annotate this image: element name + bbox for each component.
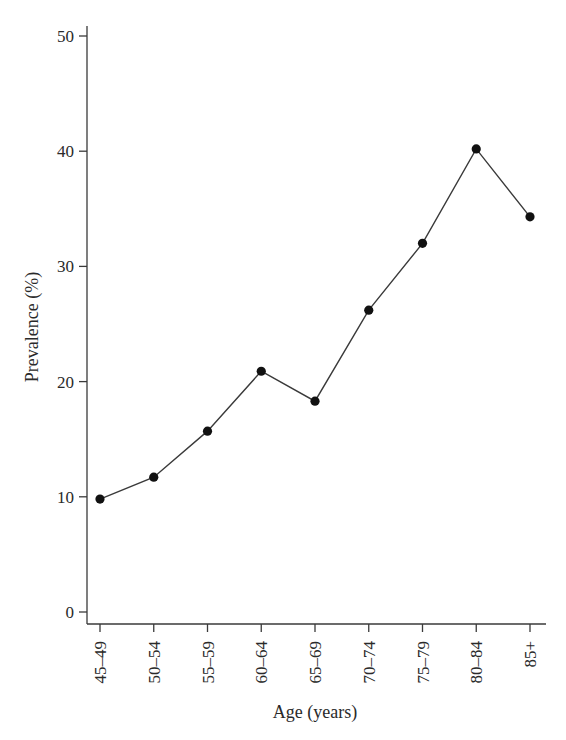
x-axis-title: Age (years)	[273, 702, 357, 723]
x-axis: 45–4950–5455–5960–6465–6970–7475–7980–84…	[87, 624, 546, 684]
y-tick-label: 10	[57, 488, 74, 507]
data-point-marker	[95, 495, 104, 504]
y-tick-label: 0	[66, 603, 75, 622]
y-tick-label: 50	[57, 27, 74, 46]
x-tick-label: 50–54	[145, 641, 164, 684]
y-tick-label: 30	[57, 257, 74, 276]
x-tick-label: 75–79	[414, 641, 433, 684]
data-point-marker	[525, 212, 534, 221]
x-tick-label: 55–59	[199, 641, 218, 684]
data-point-marker	[472, 144, 481, 153]
prevalence-line-chart: 01020304050 45–4950–5455–5960–6465–6970–…	[0, 0, 566, 740]
data-point-marker	[149, 473, 158, 482]
plot-area	[95, 144, 534, 503]
series-line	[100, 149, 530, 499]
data-point-marker	[310, 397, 319, 406]
x-tick-label: 80–84	[467, 641, 486, 684]
x-tick-label: 45–49	[91, 641, 110, 684]
x-tick-label: 60–64	[252, 641, 271, 684]
x-tick-label: 70–74	[360, 641, 379, 684]
data-point-marker	[418, 239, 427, 248]
y-axis-title: Prevalence (%)	[22, 272, 43, 382]
data-point-marker	[257, 367, 266, 376]
data-point-marker	[364, 306, 373, 315]
y-tick-label: 20	[57, 373, 74, 392]
y-axis: 01020304050	[57, 26, 87, 624]
y-tick-label: 40	[57, 142, 74, 161]
data-point-marker	[203, 427, 212, 436]
x-tick-label: 85+	[521, 641, 540, 668]
x-tick-label: 65–69	[306, 641, 325, 684]
